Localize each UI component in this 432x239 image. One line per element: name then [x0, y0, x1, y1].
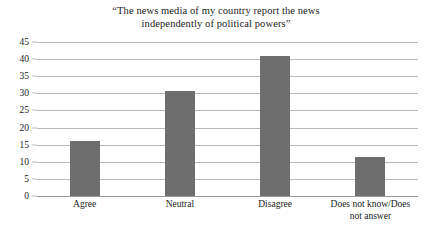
plot-area: [37, 42, 418, 196]
bar[interactable]: [260, 56, 290, 196]
gridline: [37, 196, 418, 197]
x-tick-label-line: Disagree: [228, 198, 323, 210]
bar[interactable]: [70, 141, 100, 196]
y-tick-label: 0: [24, 191, 29, 201]
x-tick-label-line: Agree: [37, 198, 132, 210]
y-tick-label: 25: [20, 105, 30, 115]
y-tick-label: 15: [20, 140, 30, 150]
x-tick-label: Agree: [37, 198, 132, 210]
y-tick-label: 30: [20, 88, 30, 98]
y-axis: 051015202530354045: [0, 42, 37, 196]
x-tick-label-line: Neutral: [132, 198, 227, 210]
y-tick-label: 45: [20, 37, 30, 47]
y-tick-label: 35: [20, 71, 30, 81]
x-tick-label-line: Does not know/Does: [323, 198, 418, 210]
x-tick-label: Neutral: [132, 198, 227, 210]
bar[interactable]: [165, 91, 195, 196]
y-tick-label: 10: [20, 157, 30, 167]
bar[interactable]: [355, 157, 385, 196]
bar-chart: “The news media of my country report the…: [0, 0, 432, 239]
x-tick-label-line: not answer: [323, 210, 418, 222]
y-tick-label: 5: [24, 174, 29, 184]
x-tick-label: Disagree: [228, 198, 323, 210]
y-tick-label: 20: [20, 123, 30, 133]
chart-title-line-2: independently of political powers”: [60, 17, 372, 30]
y-tick-label: 40: [20, 54, 30, 64]
bars-layer: [37, 42, 418, 196]
x-tick-label: Does not know/Doesnot answer: [323, 198, 418, 222]
chart-title: “The news media of my country report the…: [60, 4, 372, 30]
x-axis: AgreeNeutralDisagreeDoes not know/Doesno…: [37, 198, 418, 238]
chart-title-line-1: “The news media of my country report the…: [60, 4, 372, 17]
